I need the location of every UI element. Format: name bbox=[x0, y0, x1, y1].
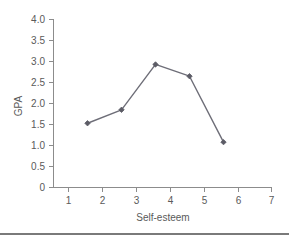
y-tick-label-3-0: 3.0 bbox=[31, 56, 45, 67]
y-tick-label-2-5: 2.5 bbox=[31, 77, 45, 88]
y-axis-tick-labels: 4.0 3.5 3.0 2.5 2.0 1.5 1.0 0.5 0 bbox=[31, 14, 45, 193]
data-point-marker bbox=[187, 74, 192, 79]
data-point-marker bbox=[221, 139, 226, 144]
x-tick-label-5: 5 bbox=[202, 195, 208, 206]
chart-screenshot: 4.0 3.5 3.0 2.5 2.0 1.5 1.0 0.5 0 bbox=[0, 0, 289, 242]
data-point-marker bbox=[85, 121, 90, 126]
x-tick-label-6: 6 bbox=[236, 195, 242, 206]
y-tick-label-3-5: 3.5 bbox=[31, 35, 45, 46]
y-tick-label-2-0: 2.0 bbox=[31, 98, 45, 109]
x-tick-label-1: 1 bbox=[66, 195, 72, 206]
line-chart-figure: 4.0 3.5 3.0 2.5 2.0 1.5 1.0 0.5 0 bbox=[0, 0, 289, 242]
series-line-path bbox=[88, 64, 224, 142]
bottom-divider-rule bbox=[0, 233, 289, 235]
plot-canvas: 4.0 3.5 3.0 2.5 2.0 1.5 1.0 0.5 0 bbox=[0, 0, 289, 242]
x-tick-label-2: 2 bbox=[100, 195, 106, 206]
x-axis-title: Self-esteem bbox=[136, 212, 189, 223]
x-tick-label-4: 4 bbox=[168, 195, 174, 206]
y-tick-label-0-5: 0.5 bbox=[31, 161, 45, 172]
y-tick-label-0: 0 bbox=[39, 182, 45, 193]
x-axis-tick-labels: 1 2 3 4 5 6 7 bbox=[66, 195, 275, 206]
x-axis-ticks bbox=[69, 188, 272, 193]
series-markers bbox=[85, 62, 226, 145]
y-axis-ticks bbox=[49, 20, 54, 188]
y-tick-label-1-5: 1.5 bbox=[31, 119, 45, 130]
x-tick-label-7: 7 bbox=[269, 195, 275, 206]
y-axis-title: GPA bbox=[13, 95, 24, 116]
data-series-gpa bbox=[85, 62, 226, 145]
y-tick-label-4-0: 4.0 bbox=[31, 14, 45, 25]
y-tick-label-1-0: 1.0 bbox=[31, 140, 45, 151]
x-tick-label-3: 3 bbox=[134, 195, 140, 206]
